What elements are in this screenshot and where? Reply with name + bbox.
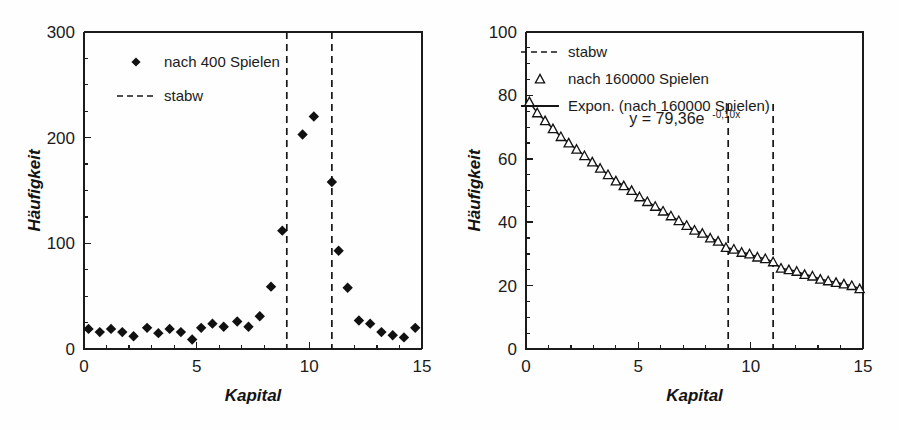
y-tick-label: 40 (498, 213, 517, 232)
legend-label: nach 400 Spielen (164, 53, 280, 70)
data-point-diamond (128, 331, 138, 341)
data-point-diamond (266, 281, 276, 291)
data-point-diamond (219, 322, 229, 332)
data-point-diamond (354, 315, 364, 325)
y-tick-label: 100 (489, 23, 517, 42)
data-point-diamond (388, 330, 398, 340)
data-point-diamond (176, 327, 186, 337)
x-tick-label: 15 (413, 357, 432, 376)
fit-equation-exponent: -0,10x (712, 109, 740, 120)
fit-curve (529, 102, 859, 289)
data-point-diamond (117, 327, 127, 337)
legend-label: stabw (164, 87, 203, 104)
data-point-diamond (95, 327, 105, 337)
data-point-diamond (277, 225, 287, 235)
data-point-diamond (164, 324, 174, 334)
data-point-diamond (232, 316, 242, 326)
data-point-diamond (142, 323, 152, 333)
y-tick-label: 0 (508, 340, 517, 359)
y-tick-label: 20 (498, 277, 517, 296)
x-axis-title: Kapital (225, 386, 283, 405)
x-tick-label: 5 (192, 357, 201, 376)
legend-label: stabw (568, 43, 607, 60)
data-point-diamond (106, 324, 116, 334)
x-axis-title: Kapital (666, 386, 724, 405)
x-tick-label: 15 (854, 357, 873, 376)
data-point-diamond (333, 246, 343, 256)
y-axis-title: Häufigkeit (465, 148, 484, 232)
legend-marker-diamond (131, 57, 140, 66)
data-point-diamond (309, 111, 319, 121)
x-tick-label: 5 (634, 357, 643, 376)
legend-label: nach 160000 Spielen (568, 70, 709, 87)
y-tick-label: 0 (66, 340, 75, 359)
y-axis-title: Häufigkeit (25, 148, 44, 232)
fit-equation: y = 79,36e (629, 110, 704, 127)
data-point-diamond (376, 327, 386, 337)
data-point-diamond (399, 332, 409, 342)
data-point-diamond (297, 129, 307, 139)
x-tick-label: 10 (741, 357, 760, 376)
x-tick-label: 10 (300, 357, 319, 376)
data-point-diamond (207, 318, 217, 328)
data-point-diamond (365, 318, 375, 328)
y-tick-label: 300 (47, 23, 75, 42)
data-point-diamond (410, 323, 420, 333)
y-tick-label: 60 (498, 150, 517, 169)
y-tick-label: 200 (47, 129, 75, 148)
data-point-diamond (243, 322, 253, 332)
data-point-diamond (255, 311, 265, 321)
figure-container: 0510150100200300KapitalHäufigkeitnach 40… (0, 0, 899, 430)
axis-spines-left (84, 32, 422, 349)
chart-panel-left: 0510150100200300KapitalHäufigkeitnach 40… (0, 0, 450, 430)
chart-panel-right: 051015020406080100KapitalHäufigkeitstabw… (450, 0, 899, 430)
x-tick-label: 0 (521, 357, 530, 376)
x-tick-label: 0 (79, 357, 88, 376)
data-point-diamond (187, 334, 197, 344)
chart-right: 051015020406080100KapitalHäufigkeitstabw… (450, 0, 899, 430)
data-point-diamond (342, 283, 352, 293)
y-tick-label: 100 (47, 234, 75, 253)
y-tick-label: 80 (498, 86, 517, 105)
axis-frame-left (84, 32, 422, 349)
chart-left: 0510150100200300KapitalHäufigkeitnach 40… (0, 0, 450, 430)
legend-marker-triangle (535, 74, 544, 83)
data-point-diamond (327, 177, 337, 187)
data-point-diamond (196, 323, 206, 333)
data-point-diamond (153, 328, 163, 338)
